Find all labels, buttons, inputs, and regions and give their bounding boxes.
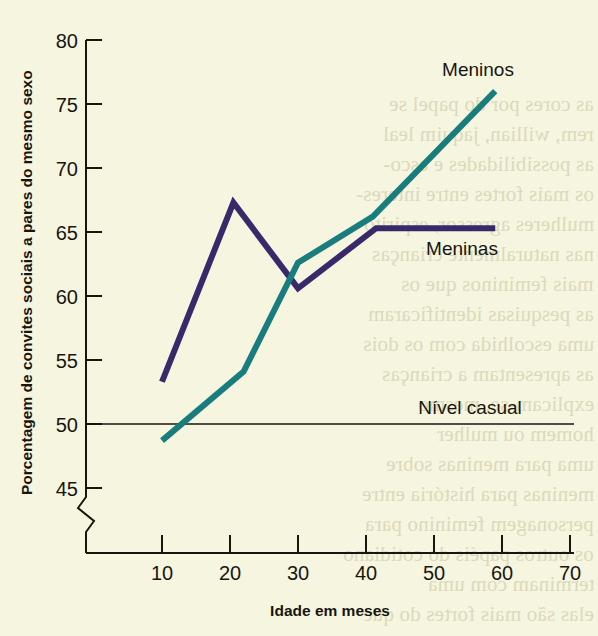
x-tick-label-40: 40 [355, 562, 377, 584]
chance-level-label: Nível casual [418, 397, 522, 418]
y-tick-label-45: 45 [56, 478, 78, 500]
x-tick-label-20: 20 [219, 562, 241, 584]
y-axis-title: Porcentagem de convites sociais a pares … [18, 70, 35, 495]
y-axis-ticks [86, 40, 102, 488]
x-tick-label-50: 50 [423, 562, 445, 584]
series-line-meninas [162, 203, 495, 382]
series-label-meninos: Meninos [442, 59, 514, 80]
y-tick-label-60: 60 [56, 286, 78, 308]
y-tick-label-55: 55 [56, 350, 78, 372]
y-tick-label-75: 75 [56, 94, 78, 116]
series-label-meninas: Meninas [426, 238, 498, 259]
y-tick-label-65: 65 [56, 222, 78, 244]
y-axis-break-symbol [78, 493, 94, 540]
y-tick-label-80: 80 [56, 30, 78, 52]
chart-page: as cores por do papel serem, willian, ja… [0, 0, 598, 636]
x-axis-title: Idade em meses [270, 602, 390, 619]
y-tick-label-70: 70 [56, 158, 78, 180]
y-tick-label-50: 50 [56, 414, 78, 436]
x-axis-ticks [162, 535, 570, 553]
x-tick-label-10: 10 [151, 562, 173, 584]
line-chart: Porcentagem de convites sociais a pares … [0, 0, 598, 636]
x-tick-label-30: 30 [287, 562, 309, 584]
x-axis-tick-labels: 10 20 30 40 50 60 70 [151, 562, 581, 584]
x-tick-label-70: 70 [559, 562, 581, 584]
x-tick-label-60: 60 [491, 562, 513, 584]
y-axis-tick-labels: 80 75 70 65 60 55 50 45 [56, 30, 78, 500]
